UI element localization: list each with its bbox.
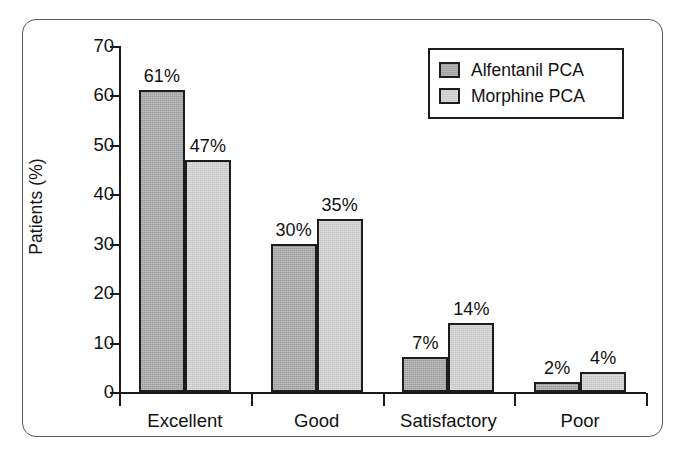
legend-label-alfentanil: Alfentanil PCA: [471, 60, 584, 81]
bar: [317, 219, 363, 392]
y-axis-tick-label: 60: [62, 84, 114, 106]
y-axis-tick-label: 20: [62, 282, 114, 304]
bar-value-label: 4%: [590, 348, 616, 369]
y-axis-tick-label: 30: [62, 233, 114, 255]
y-axis-tick-label: 10: [62, 332, 114, 354]
bar-value-label: 35%: [322, 195, 358, 216]
category-label: Good: [294, 410, 339, 432]
bar: [271, 244, 317, 392]
x-axis-tick-mark: [383, 393, 385, 406]
x-axis-tick-mark: [646, 393, 648, 406]
legend-item-morphine: Morphine PCA: [439, 83, 613, 109]
category-label: Satisfactory: [400, 410, 497, 432]
bar: [139, 90, 185, 392]
legend-swatch-morphine-icon: [439, 88, 460, 104]
bar-value-label: 7%: [412, 333, 438, 354]
x-axis-tick-mark: [119, 393, 121, 406]
bar: [580, 372, 626, 392]
bar: [534, 382, 580, 392]
bar-value-label: 14%: [453, 299, 489, 320]
y-axis-tick-label: 0: [62, 381, 114, 403]
chart-legend: Alfentanil PCA Morphine PCA: [428, 48, 624, 119]
y-axis-tick-label: 50: [62, 134, 114, 156]
y-axis-tick-label: 40: [62, 183, 114, 205]
legend-item-alfentanil: Alfentanil PCA: [439, 57, 613, 83]
bar-value-label: 47%: [190, 136, 226, 157]
bar-value-label: 61%: [144, 66, 180, 87]
bar: [402, 357, 448, 392]
bar-value-label: 30%: [276, 220, 312, 241]
bar: [185, 160, 231, 392]
bar-value-label: 2%: [544, 358, 570, 379]
y-axis-title: Patients (%): [26, 137, 47, 277]
category-label: Excellent: [147, 410, 222, 432]
x-axis-tick-mark: [514, 393, 516, 406]
bar-chart: Patients (%) 010203040506070 61%47%30%35…: [0, 0, 685, 461]
category-label: Poor: [561, 410, 600, 432]
bar: [448, 323, 494, 392]
x-axis-tick-mark: [251, 393, 253, 406]
y-axis-tick-label: 70: [62, 35, 114, 57]
legend-swatch-alfentanil-icon: [439, 62, 460, 78]
y-axis-line: [119, 46, 121, 394]
legend-label-morphine: Morphine PCA: [471, 86, 585, 107]
